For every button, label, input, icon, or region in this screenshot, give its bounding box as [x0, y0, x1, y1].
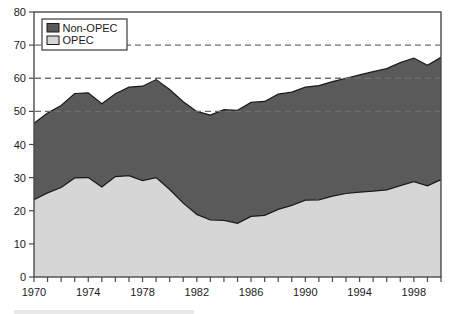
x-tick-label-1970: 1970 — [22, 286, 46, 298]
x-axis-labels: 19701974197819821986199019941998 — [22, 286, 426, 298]
y-tick-label-0: 0 — [20, 271, 26, 283]
x-tick-label-1978: 1978 — [130, 286, 154, 298]
x-tick-label-1986: 1986 — [239, 286, 263, 298]
chart-legend: Non-OPEC OPEC — [42, 19, 127, 50]
caption-clipped-text — [14, 310, 194, 314]
x-tick-label-1998: 1998 — [402, 286, 426, 298]
y-tick-label-20: 20 — [14, 205, 26, 217]
legend-label-non-opec: Non-OPEC — [63, 22, 118, 34]
legend-label-opec: OPEC — [63, 34, 94, 46]
y-axis: 01020304050607080 — [14, 6, 34, 283]
legend-swatch-opec — [47, 36, 59, 45]
y-tick-label-70: 70 — [14, 39, 26, 51]
x-tick-label-1982: 1982 — [185, 286, 209, 298]
y-tick-label-50: 50 — [14, 105, 26, 117]
stacked-area-chart: 01020304050607080 1970197419781982198619… — [0, 0, 454, 314]
y-tick-label-10: 10 — [14, 238, 26, 250]
x-tick-label-1974: 1974 — [76, 286, 100, 298]
y-tick-label-40: 40 — [14, 139, 26, 151]
x-tick-label-1994: 1994 — [347, 286, 371, 298]
y-tick-label-80: 80 — [14, 6, 26, 18]
y-tick-label-60: 60 — [14, 72, 26, 84]
x-tick-label-1990: 1990 — [293, 286, 317, 298]
chart-figure: 01020304050607080 1970197419781982198619… — [0, 0, 454, 314]
x-axis-ticks — [34, 277, 441, 282]
legend-swatch-non-opec — [47, 24, 59, 33]
figure-caption-strip — [14, 310, 194, 314]
y-tick-label-30: 30 — [14, 172, 26, 184]
